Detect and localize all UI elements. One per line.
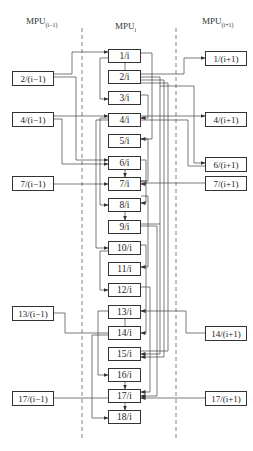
mpu-i-unit: 4/i [108, 113, 141, 127]
mpu-prev-unit: 2/(i−1) [12, 71, 54, 86]
mpu-i-unit: 9/i [108, 220, 141, 234]
header-mpu-right: MPU(i+1) [202, 16, 234, 28]
mpu-i-unit: 2/i [108, 70, 141, 84]
mpu-i-unit: 1/i [108, 49, 141, 63]
mpu-i-unit: 13/i [108, 305, 141, 319]
mpu-next-unit: 14/(i+1) [205, 326, 247, 341]
mpu-prev-unit: 13/(i−1) [12, 306, 54, 321]
mpu-i-unit: 12/i [108, 283, 141, 297]
connection-lines [53, 52, 205, 418]
mpu-i-unit: 8/i [108, 198, 141, 212]
mpu-i-unit: 5/i [108, 134, 141, 148]
mpu-i-unit: 7/i [108, 177, 141, 191]
mpu-next-unit: 1/(i+1) [205, 51, 247, 66]
header-right-sub: (i+1) [222, 22, 234, 28]
mpu-next-unit: 6/(i+1) [205, 157, 247, 172]
mpu-i-unit: 14/i [108, 326, 141, 340]
header-middle-base: MPU [115, 21, 135, 31]
mpu-i-unit: 6/i [108, 156, 141, 170]
header-mpu-middle: MPUi [115, 21, 136, 33]
header-mpu-left: MPU(i−1) [26, 16, 58, 28]
mpu-next-unit: 4/(i+1) [205, 112, 247, 127]
mpu-i-unit: 3/i [108, 91, 141, 105]
mpu-i-unit: 17/i [108, 389, 141, 403]
mpu-next-unit: 7/(i+1) [205, 176, 247, 191]
header-right-base: MPU [202, 16, 222, 26]
header-left-base: MPU [26, 16, 46, 26]
header-left-sub: (i−1) [46, 22, 58, 28]
mpu-i-unit: 10/i [108, 241, 141, 255]
mpu-i-unit: 15/i [108, 347, 141, 361]
mpu-i-unit: 18/i [108, 410, 141, 424]
mpu-prev-unit: 7/(i−1) [12, 176, 54, 191]
mpu-i-unit: 11/i [108, 262, 141, 276]
header-middle-sub: i [135, 27, 137, 33]
mpu-next-unit: 17/(i+1) [205, 391, 247, 406]
mpu-i-unit: 16/i [108, 368, 141, 382]
mpu-prev-unit: 4/(i−1) [12, 112, 54, 127]
mpu-prev-unit: 17/(i−1) [12, 391, 54, 406]
